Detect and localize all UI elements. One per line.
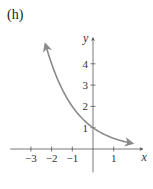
x-tick-label: −1 (66, 152, 78, 164)
y-tick-label: 4 (83, 58, 89, 70)
series-curve (45, 44, 132, 143)
x-tick-label: −2 (46, 152, 58, 164)
x-axis-label: x (141, 150, 148, 164)
y-axis-label: y (82, 31, 89, 45)
y-tick-label: 2 (83, 100, 89, 112)
y-tick-label: 3 (83, 79, 89, 91)
x-tick-label: 1 (111, 152, 117, 164)
chart: xy −3−2−111234 (0, 0, 153, 189)
x-tick-label: −3 (25, 152, 37, 164)
